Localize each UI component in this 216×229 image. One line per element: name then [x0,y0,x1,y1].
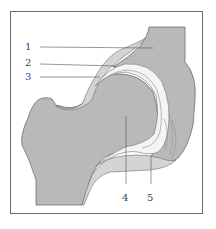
label-4: 4 [122,193,128,203]
hip-joint-illustration [0,0,216,229]
label-3: 3 [25,72,31,82]
label-5: 5 [147,193,153,203]
label-2: 2 [25,58,31,68]
label-1: 1 [25,42,31,52]
